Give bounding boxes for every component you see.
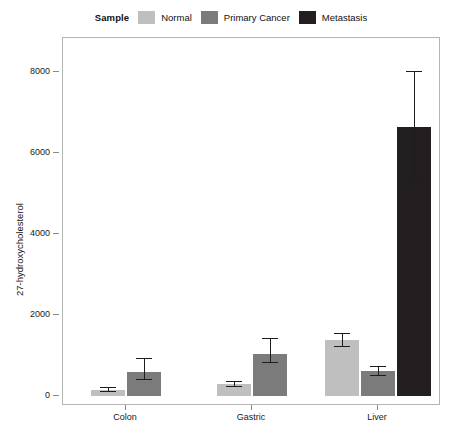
legend-entry-normal: Normal bbox=[138, 11, 192, 24]
y-axis-tick-label: 8000 bbox=[30, 66, 50, 76]
error-bar-line bbox=[342, 333, 343, 347]
error-bar-cap-lower bbox=[226, 386, 242, 387]
y-axis-tick-mark bbox=[53, 395, 59, 396]
y-axis-tick-label: 0 bbox=[45, 390, 50, 400]
error-bar-liver-metastasis bbox=[397, 71, 431, 183]
y-axis-tick-mark bbox=[53, 152, 59, 153]
error-bar-cap-upper bbox=[406, 71, 422, 72]
legend-entry-primary-cancer: Primary Cancer bbox=[201, 11, 290, 24]
bar-liver-normal bbox=[325, 340, 359, 396]
error-bar-gastric-primary-cancer bbox=[253, 338, 287, 362]
x-axis-tick-label-colon: Colon bbox=[113, 412, 137, 422]
error-bar-line bbox=[270, 338, 271, 362]
legend-label-primary-cancer: Primary Cancer bbox=[224, 12, 290, 23]
error-bar-gastric-normal bbox=[217, 381, 251, 387]
y-axis-tick-label: 6000 bbox=[30, 147, 50, 157]
error-bar-cap-upper bbox=[100, 387, 116, 388]
error-bar-colon-primary-cancer bbox=[127, 358, 161, 380]
error-bar-colon-normal bbox=[91, 387, 125, 392]
error-bar-cap-upper bbox=[334, 333, 350, 334]
x-axis-tick-mark bbox=[125, 405, 126, 410]
error-bar-cap-upper bbox=[226, 381, 242, 382]
y-axis: 02000400060008000 bbox=[0, 0, 62, 436]
error-bar-line bbox=[144, 358, 145, 380]
chart-legend: Sample Normal Primary Cancer Metastasis bbox=[0, 8, 462, 26]
legend-swatch-metastasis bbox=[299, 11, 316, 24]
error-bar-cap-lower bbox=[370, 375, 386, 376]
y-axis-tick-mark bbox=[53, 233, 59, 234]
y-axis-tick-mark bbox=[53, 71, 59, 72]
x-axis-tick-label-liver: Liver bbox=[367, 412, 387, 422]
y-axis-tick-label: 4000 bbox=[30, 228, 50, 238]
legend-swatch-normal bbox=[138, 11, 155, 24]
error-bar-cap-upper bbox=[370, 366, 386, 367]
legend-entry-metastasis: Metastasis bbox=[299, 11, 367, 24]
error-bar-cap-lower bbox=[262, 362, 278, 363]
error-bar-cap-lower bbox=[334, 346, 350, 347]
x-axis-tick-label-gastric: Gastric bbox=[237, 412, 266, 422]
error-bar-cap-lower bbox=[136, 379, 152, 380]
error-bar-cap-upper bbox=[136, 358, 152, 359]
error-bar-cap-lower bbox=[100, 391, 116, 392]
y-axis-tick-label: 2000 bbox=[30, 309, 50, 319]
x-axis-tick-mark bbox=[251, 405, 252, 410]
y-axis-label: 27-hydroxycholesterol bbox=[14, 203, 25, 296]
y-axis-tick-mark bbox=[53, 314, 59, 315]
legend-label-normal: Normal bbox=[161, 12, 192, 23]
x-axis-tick-mark bbox=[377, 405, 378, 410]
error-bar-cap-lower bbox=[406, 182, 422, 183]
error-bar-cap-upper bbox=[262, 338, 278, 339]
chart-figure: Sample Normal Primary Cancer Metastasis … bbox=[0, 0, 462, 436]
error-bar-line bbox=[414, 71, 415, 183]
plot-area bbox=[63, 38, 439, 404]
legend-label-metastasis: Metastasis bbox=[322, 12, 367, 23]
legend-swatch-primary-cancer bbox=[201, 11, 218, 24]
legend-title: Sample bbox=[95, 12, 129, 23]
error-bar-liver-normal bbox=[325, 333, 359, 347]
error-bar-liver-primary-cancer bbox=[361, 366, 395, 377]
plot-panel bbox=[62, 37, 440, 405]
